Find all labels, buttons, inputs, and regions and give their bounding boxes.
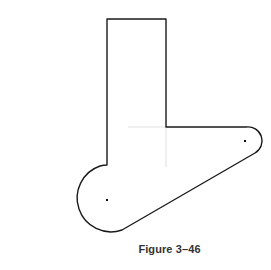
left-arc-center-point xyxy=(106,199,108,201)
right-arc-center-point xyxy=(244,140,246,142)
figure-caption: Figure 3–46 xyxy=(0,243,271,255)
part-outline xyxy=(77,19,262,232)
drawing-canvas xyxy=(0,0,271,270)
